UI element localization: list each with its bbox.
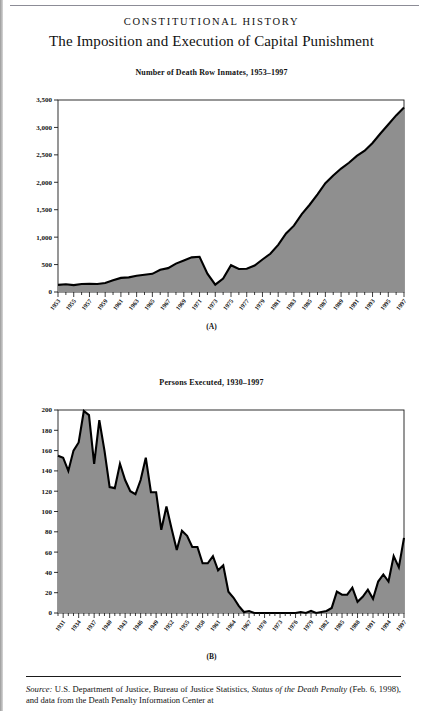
svg-text:1991: 1991 [347,297,360,311]
source-italic-1: Status of the Death Penalty [252,684,347,694]
svg-text:1973: 1973 [270,618,283,632]
svg-text:1997: 1997 [394,618,407,632]
svg-text:1991: 1991 [363,618,376,632]
svg-text:1975: 1975 [221,297,234,311]
svg-text:1965: 1965 [143,297,156,311]
figure-b-title: Persons Executed, 1930–1997 [0,378,423,387]
svg-text:20: 20 [45,589,53,597]
svg-text:1988: 1988 [348,618,361,632]
svg-text:1940: 1940 [100,618,113,632]
svg-text:0: 0 [49,609,53,617]
source-note: Source: U.S. Department of Justice, Bure… [26,684,401,707]
svg-text:0: 0 [49,288,53,296]
header-rule [10,5,419,6]
page-title: The Imposition and Execution of Capital … [0,33,423,50]
svg-text:180: 180 [42,427,53,435]
svg-text:1995: 1995 [379,297,392,311]
svg-text:1967: 1967 [158,297,171,311]
figure-b: Persons Executed, 1930–1997 020406080100… [0,378,423,661]
figure-b-plot: 0204060801001201401601802001931193419371… [0,387,423,652]
svg-text:1931: 1931 [53,618,66,632]
svg-text:1997: 1997 [394,297,407,311]
figure-a: Number of Death Row Inmates, 1953–1997 0… [0,68,423,331]
svg-text:3,000: 3,000 [36,124,52,132]
svg-text:1994: 1994 [379,618,392,632]
svg-text:2,500: 2,500 [36,151,52,159]
svg-text:1989: 1989 [331,297,344,311]
svg-text:1946: 1946 [131,618,144,632]
svg-text:1985: 1985 [332,618,345,632]
svg-text:100: 100 [42,508,53,516]
svg-text:1964: 1964 [224,618,237,632]
svg-text:60: 60 [45,549,53,557]
svg-text:2,000: 2,000 [36,179,52,187]
svg-text:1949: 1949 [146,618,159,632]
svg-text:1952: 1952 [162,618,175,632]
svg-text:1955: 1955 [64,297,77,311]
svg-text:1937: 1937 [84,618,97,632]
svg-text:120: 120 [42,488,53,496]
svg-text:1961: 1961 [208,618,221,632]
svg-text:1955: 1955 [177,618,190,632]
svg-text:1967: 1967 [239,618,252,632]
svg-text:1,000: 1,000 [36,234,52,242]
svg-text:1,500: 1,500 [36,206,52,214]
svg-text:40: 40 [45,569,53,577]
svg-text:1971: 1971 [190,297,203,311]
svg-text:1987: 1987 [316,297,329,311]
svg-text:140: 140 [42,467,53,475]
svg-text:1979: 1979 [301,618,314,632]
running-head: CONSTITUTIONAL HISTORY [0,16,423,27]
svg-text:1970: 1970 [255,618,268,632]
svg-text:1982: 1982 [317,618,330,632]
svg-text:80: 80 [45,528,53,536]
svg-text:1983: 1983 [284,297,297,311]
chart-a-svg: 05001,0001,5002,0002,5003,0003,500195319… [0,77,423,322]
svg-text:1976: 1976 [286,618,299,632]
svg-text:1985: 1985 [300,297,313,311]
source-label: Source: [26,684,52,694]
svg-text:1959: 1959 [95,297,108,311]
svg-text:1961: 1961 [111,297,124,311]
source-text-1: U.S. Department of Justice, Bureau of Ju… [52,684,251,694]
figure-a-caption: (A) [0,322,423,331]
svg-text:1979: 1979 [253,297,266,311]
svg-text:1969: 1969 [174,297,187,311]
svg-text:500: 500 [42,261,53,269]
svg-text:1934: 1934 [69,618,82,632]
svg-text:1973: 1973 [206,297,219,311]
svg-text:3,500: 3,500 [36,96,52,104]
svg-text:1993: 1993 [363,297,376,311]
svg-text:1977: 1977 [237,297,250,311]
figure-b-caption: (B) [0,652,423,661]
svg-text:1957: 1957 [80,297,93,311]
svg-text:1958: 1958 [193,618,206,632]
svg-text:200: 200 [42,406,53,414]
figure-a-plot: 05001,0001,5002,0002,5003,0003,500195319… [0,77,423,322]
svg-text:1953: 1953 [48,297,61,311]
footer-rule [26,676,401,677]
svg-text:1943: 1943 [115,618,128,632]
svg-text:1981: 1981 [268,297,281,311]
svg-text:1963: 1963 [127,297,140,311]
svg-text:160: 160 [42,447,53,455]
chart-b-svg: 0204060801001201401601802001931193419371… [0,387,423,652]
figure-a-title: Number of Death Row Inmates, 1953–1997 [0,68,423,77]
